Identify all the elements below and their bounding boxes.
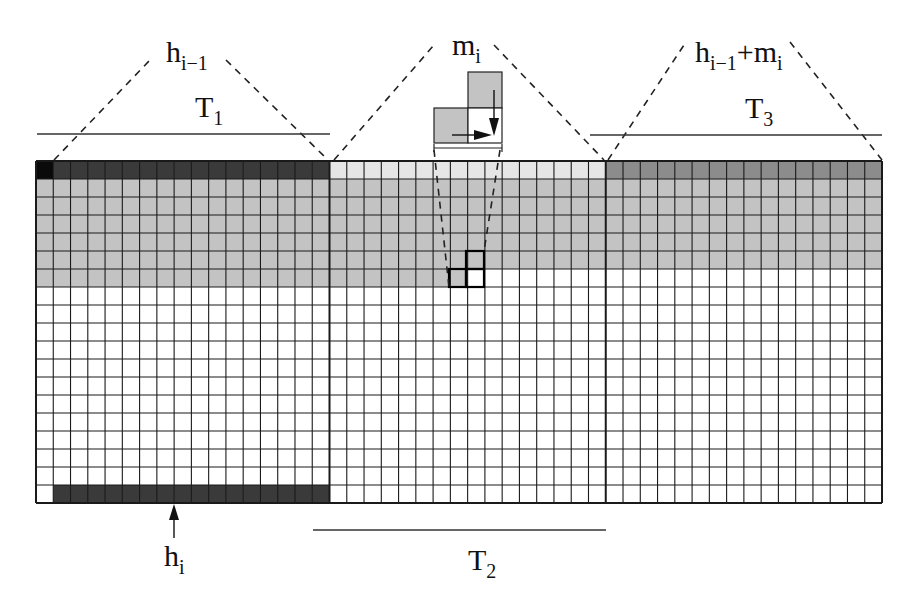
grid-cell bbox=[88, 197, 106, 215]
grid-cell bbox=[226, 377, 244, 395]
grid-cell bbox=[606, 233, 624, 251]
grid-cell bbox=[744, 179, 762, 197]
grid-cell bbox=[554, 485, 572, 503]
arrow-up-icon bbox=[169, 504, 179, 520]
grid-cell bbox=[330, 467, 348, 485]
label-T2: T2 bbox=[468, 543, 496, 582]
grid-cell bbox=[416, 179, 434, 197]
label-T1: T1 bbox=[195, 90, 223, 129]
grid-cell bbox=[554, 413, 572, 431]
grid-cell bbox=[502, 341, 520, 359]
grid-cell bbox=[813, 197, 831, 215]
grid-cell bbox=[243, 251, 261, 269]
grid-cell bbox=[778, 251, 796, 269]
grid-cell bbox=[675, 251, 693, 269]
grid-cell bbox=[623, 215, 641, 233]
grid-cell bbox=[330, 215, 348, 233]
grid-cell bbox=[260, 179, 278, 197]
grid-cell bbox=[243, 485, 261, 503]
grid-cell bbox=[761, 179, 779, 197]
grid-cell bbox=[709, 287, 727, 305]
grid-cell bbox=[571, 341, 589, 359]
grid-cell bbox=[588, 341, 606, 359]
grid-cell bbox=[554, 431, 572, 449]
grid-cell bbox=[606, 287, 624, 305]
grid-cell bbox=[813, 413, 831, 431]
grid-cell bbox=[865, 431, 883, 449]
grid-cell bbox=[174, 269, 192, 287]
grid-cell bbox=[571, 197, 589, 215]
grid-cell bbox=[692, 485, 710, 503]
grid-cell bbox=[330, 161, 348, 179]
grid-cell bbox=[278, 179, 296, 197]
grid-cell bbox=[761, 467, 779, 485]
grid-cell bbox=[640, 197, 658, 215]
grid-cell bbox=[502, 413, 520, 431]
grid-cell bbox=[675, 197, 693, 215]
grid-cell bbox=[312, 359, 330, 377]
grid-cell bbox=[606, 413, 624, 431]
grid-cell bbox=[381, 161, 399, 179]
grid-cell bbox=[243, 341, 261, 359]
grid-cell bbox=[468, 359, 486, 377]
grid-cell bbox=[554, 449, 572, 467]
grid-cell bbox=[468, 395, 486, 413]
grid-cell bbox=[675, 269, 693, 287]
grid-cell bbox=[554, 269, 572, 287]
grid-cell bbox=[157, 305, 175, 323]
grid-cell bbox=[364, 197, 382, 215]
grid-cell bbox=[36, 269, 54, 287]
grid-cell bbox=[847, 341, 865, 359]
grid-cell bbox=[778, 449, 796, 467]
grid-cell bbox=[157, 449, 175, 467]
grid-cell bbox=[692, 215, 710, 233]
grid-cell bbox=[71, 233, 89, 251]
grid-cell bbox=[243, 359, 261, 377]
grid-cell bbox=[347, 377, 365, 395]
grid-cell bbox=[226, 449, 244, 467]
grid-cell bbox=[260, 485, 278, 503]
grid-cell bbox=[588, 431, 606, 449]
grid-cell bbox=[658, 197, 676, 215]
grid-cell bbox=[675, 161, 693, 179]
grid-cell bbox=[433, 395, 451, 413]
grid-cell bbox=[157, 215, 175, 233]
grid-cell bbox=[433, 251, 451, 269]
grid-cell bbox=[381, 215, 399, 233]
grid-cell bbox=[312, 269, 330, 287]
grid-cell bbox=[485, 377, 503, 395]
grid-cell bbox=[243, 467, 261, 485]
grid-cell bbox=[347, 467, 365, 485]
grid-cell bbox=[140, 305, 158, 323]
grid-cell bbox=[381, 251, 399, 269]
grid-cell bbox=[278, 161, 296, 179]
grid-cell bbox=[381, 287, 399, 305]
grid-cell bbox=[347, 161, 365, 179]
grid-cell bbox=[778, 305, 796, 323]
grid-cell bbox=[71, 359, 89, 377]
grid-cell bbox=[260, 431, 278, 449]
grid-cell bbox=[830, 287, 848, 305]
grid-cell bbox=[330, 323, 348, 341]
grid-cell bbox=[519, 215, 537, 233]
grid-cell bbox=[727, 467, 745, 485]
grid-cell bbox=[744, 431, 762, 449]
grid-cell bbox=[623, 251, 641, 269]
grid-cell bbox=[260, 341, 278, 359]
grid-cell bbox=[847, 179, 865, 197]
grid-cell bbox=[174, 197, 192, 215]
grid-cell bbox=[122, 179, 140, 197]
grid-cell bbox=[502, 233, 520, 251]
grid-cell bbox=[278, 197, 296, 215]
grid-cell bbox=[347, 305, 365, 323]
grid-cell bbox=[209, 287, 227, 305]
grid-cell bbox=[571, 287, 589, 305]
grid-cell bbox=[140, 413, 158, 431]
grid-cell bbox=[709, 323, 727, 341]
label-h-i-bottom: hi bbox=[164, 539, 185, 578]
grid-cell bbox=[36, 485, 54, 503]
grid-cell bbox=[761, 251, 779, 269]
grid-cell bbox=[433, 431, 451, 449]
grid-cell bbox=[450, 197, 468, 215]
grid-cell bbox=[830, 251, 848, 269]
